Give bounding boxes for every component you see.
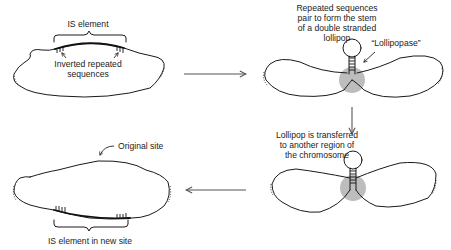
is-element-label: IS element [67,19,109,29]
lollipop-loop [343,39,361,57]
svg-text:lollipop: lollipop [324,33,351,43]
svg-text:of a double stranded: of a double stranded [298,23,377,33]
lollipop-loop [344,151,362,169]
step4-new-site: Original site IS element in new site [13,141,170,246]
pointer-arrow-icon [100,146,114,155]
inverted-repeats-label-line2: sequences [67,69,109,79]
is-element-brace [54,31,126,42]
lollipopase-label: “Lollipopase” [371,38,420,48]
step2-lollipop-formation: Repeated sequences pair to form the stem… [264,3,444,97]
inverted-repeat-right [117,213,126,218]
pointer-arrow-icon [364,52,375,62]
step1-chromosome: IS element Inverted repeated sequences [14,19,165,97]
pointer-arrow-icon [114,53,118,58]
step3-lollipop-transfer: Lollipop is transferred to another regio… [271,130,436,212]
svg-text:Repeated sequences: Repeated sequences [296,3,377,13]
svg-text:Lollipop is transferred: Lollipop is transferred [276,130,358,140]
is-element-segment [55,43,124,49]
pointer-arrow-icon [62,53,66,58]
svg-text:pair to form the stem: pair to form the stem [298,13,377,23]
original-site-label: Original site [118,141,164,151]
chromosome-outline [14,161,169,219]
svg-text:the chromosome: the chromosome [285,150,349,160]
new-site-brace [54,220,128,231]
is-transposition-diagram: IS element Inverted repeated sequences R… [0,0,451,250]
svg-text:to another region of: to another region of [280,140,355,150]
inverted-repeats-label-line1: Inverted repeated [54,59,122,69]
is-element-new-site-label: IS element in new site [48,236,132,246]
